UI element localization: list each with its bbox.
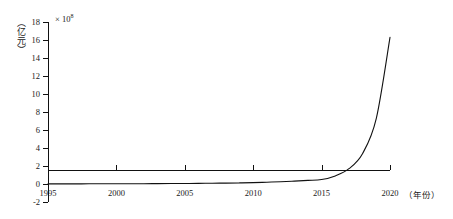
data-series-line (0, 0, 453, 219)
series-path (48, 37, 390, 184)
chart-figure: （亿元） × 108 -2024681012141618 19952000200… (0, 0, 453, 219)
x-axis-title: （年份） (404, 188, 440, 200)
